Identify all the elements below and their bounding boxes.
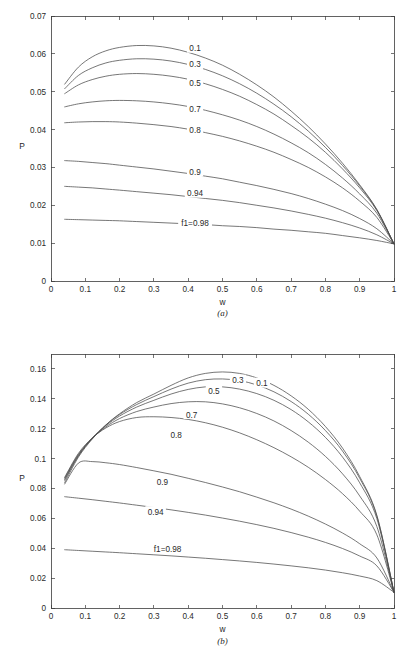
curve-label: 0.3 xyxy=(189,60,201,69)
data-curve xyxy=(65,461,394,592)
x-tick-label: 0.8 xyxy=(320,285,332,294)
y-axis-title: P xyxy=(19,141,25,151)
chart-svg-a: 00.10.20.30.40.50.60.70.80.9100.010.020.… xyxy=(0,0,411,330)
curve-label: 0.7 xyxy=(189,105,201,114)
chart-panel-b: 00.10.20.30.40.50.60.70.80.9100.020.040.… xyxy=(0,320,411,654)
y-tick-label: 0 xyxy=(41,277,46,286)
y-tick-label: 0.01 xyxy=(30,239,46,248)
data-curve xyxy=(65,550,394,593)
subfigure-caption: (a) xyxy=(217,308,228,318)
chart-panel-a: 00.10.20.30.40.50.60.70.80.9100.010.020.… xyxy=(0,0,411,330)
curve-label: 0.8 xyxy=(170,431,182,440)
curve-label: 0.1 xyxy=(256,379,268,388)
curve-label: f1=0.98 xyxy=(154,545,182,554)
plot-frame xyxy=(51,354,394,608)
x-tick-label: 0.5 xyxy=(217,285,229,294)
x-axis-title: w xyxy=(218,297,226,307)
curve-label: 0.94 xyxy=(148,508,164,517)
y-tick-label: 0.16 xyxy=(30,365,46,374)
chart-svg-b: 00.10.20.30.40.50.60.70.80.9100.020.040.… xyxy=(0,320,411,654)
data-curve xyxy=(65,387,394,593)
data-curve xyxy=(65,74,394,244)
y-axis-title: P xyxy=(19,473,25,483)
curve-label: 0.7 xyxy=(186,411,198,420)
x-tick-label: 1 xyxy=(392,285,397,294)
y-tick-label: 0.02 xyxy=(30,201,46,210)
curve-label: 0.94 xyxy=(187,189,203,198)
y-tick-label: 0.1 xyxy=(35,455,47,464)
y-tick-label: 0.07 xyxy=(30,12,46,21)
x-tick-label: 0.1 xyxy=(80,612,92,621)
y-tick-label: 0.02 xyxy=(30,574,46,583)
data-curve xyxy=(65,161,394,244)
x-tick-label: 0.8 xyxy=(320,612,332,621)
x-tick-label: 0.4 xyxy=(183,612,195,621)
curve-label: 0.9 xyxy=(189,168,201,177)
x-tick-label: 0.3 xyxy=(148,285,160,294)
x-axis-title: w xyxy=(218,624,226,634)
data-curve xyxy=(65,186,394,244)
y-tick-label: 0.06 xyxy=(30,50,46,59)
x-tick-label: 0 xyxy=(49,285,54,294)
y-tick-label: 0.05 xyxy=(30,88,46,97)
x-tick-label: 0.7 xyxy=(285,285,297,294)
x-tick-label: 0.2 xyxy=(114,285,126,294)
y-tick-label: 0.06 xyxy=(30,514,46,523)
figure-page: 00.10.20.30.40.50.60.70.80.9100.010.020.… xyxy=(0,0,411,654)
curve-label: 0.5 xyxy=(189,79,201,88)
y-tick-label: 0.04 xyxy=(30,544,46,553)
x-tick-label: 0.3 xyxy=(148,612,160,621)
y-tick-label: 0.08 xyxy=(30,484,46,493)
curve-label: 0.9 xyxy=(157,478,169,487)
x-tick-label: 0 xyxy=(49,612,54,621)
curve-label: 0.8 xyxy=(189,126,201,135)
x-tick-label: 0.6 xyxy=(251,285,263,294)
subfigure-caption: (b) xyxy=(217,636,228,646)
data-curve xyxy=(65,417,394,593)
x-tick-label: 0.2 xyxy=(114,612,126,621)
y-tick-label: 0.12 xyxy=(30,425,46,434)
curve-label: 0.3 xyxy=(232,376,244,385)
x-tick-label: 0.7 xyxy=(285,612,297,621)
data-curve xyxy=(65,402,394,593)
y-tick-label: 0.03 xyxy=(30,163,46,172)
y-tick-label: 0.14 xyxy=(30,395,46,404)
curve-label: 0.1 xyxy=(189,44,201,53)
x-tick-label: 0.4 xyxy=(183,285,195,294)
data-curve xyxy=(65,122,394,244)
plot-frame xyxy=(51,16,394,281)
x-tick-label: 1 xyxy=(392,612,397,621)
data-curve xyxy=(65,497,394,593)
y-tick-label: 0.04 xyxy=(30,126,46,135)
y-tick-label: 0 xyxy=(41,604,46,613)
x-tick-label: 0.9 xyxy=(354,285,366,294)
x-tick-label: 0.9 xyxy=(354,612,366,621)
x-tick-label: 0.5 xyxy=(217,612,229,621)
curve-label: f1=0.98 xyxy=(181,219,209,228)
x-tick-label: 0.1 xyxy=(80,285,92,294)
curve-label: 0.5 xyxy=(208,387,220,396)
data-curve xyxy=(65,59,394,244)
x-tick-label: 0.6 xyxy=(251,612,263,621)
